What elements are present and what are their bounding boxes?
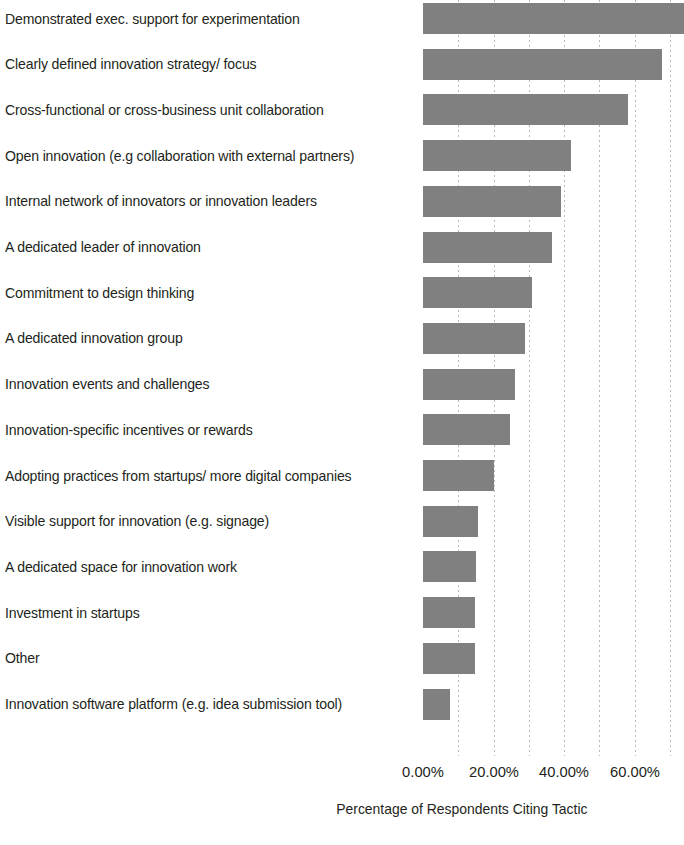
category-label: A dedicated innovation group (5, 330, 401, 346)
category-axis-labels: Demonstrated exec. support for experimen… (0, 0, 418, 756)
category-label: Open innovation (e.g collaboration with … (5, 148, 401, 164)
bar (423, 551, 476, 582)
category-label: Demonstrated exec. support for experimen… (5, 11, 401, 27)
x-axis-title: Percentage of Respondents Citing Tactic (0, 800, 684, 818)
bar (423, 460, 494, 491)
bar (423, 94, 628, 125)
bar (423, 414, 510, 445)
bar (423, 277, 532, 308)
x-tick-label: 60.00% (600, 762, 668, 782)
category-label: Internal network of innovators or innova… (5, 193, 401, 209)
x-axis-tick-labels: 0.00%20.00%40.00%60.00% (0, 762, 684, 786)
category-label: Visible support for innovation (e.g. sig… (5, 513, 401, 529)
gridline (635, 0, 636, 756)
category-label: A dedicated leader of innovation (5, 239, 401, 255)
category-label: Adopting practices from startups/ more d… (5, 468, 401, 484)
category-label: Innovation events and challenges (5, 376, 401, 392)
bar (423, 369, 515, 400)
bar (423, 3, 684, 34)
x-tick-label: 0.00% (389, 762, 457, 782)
bar (423, 140, 571, 171)
bar (423, 689, 450, 720)
bar (423, 643, 475, 674)
bar (423, 506, 478, 537)
category-label: A dedicated space for innovation work (5, 559, 401, 575)
category-label: Cross-functional or cross-business unit … (5, 102, 401, 118)
category-label: Innovation-specific incentives or reward… (5, 422, 401, 438)
bar (423, 186, 561, 217)
bar (423, 232, 552, 263)
category-label: Clearly defined innovation strategy/ foc… (5, 56, 401, 72)
horizontal-bar-chart: Demonstrated exec. support for experimen… (0, 0, 684, 845)
category-label: Commitment to design thinking (5, 285, 401, 301)
bar (423, 49, 662, 80)
category-label: Investment in startups (5, 605, 401, 621)
gridline (670, 0, 671, 756)
bar (423, 323, 525, 354)
x-axis-title-text: Percentage of Respondents Citing Tactic (96, 800, 587, 818)
bar (423, 597, 475, 628)
x-tick-label: 20.00% (459, 762, 527, 782)
x-tick-label: 40.00% (530, 762, 598, 782)
plot-area (423, 0, 684, 756)
category-label: Other (5, 650, 401, 666)
category-label: Innovation software platform (e.g. idea … (5, 696, 401, 712)
